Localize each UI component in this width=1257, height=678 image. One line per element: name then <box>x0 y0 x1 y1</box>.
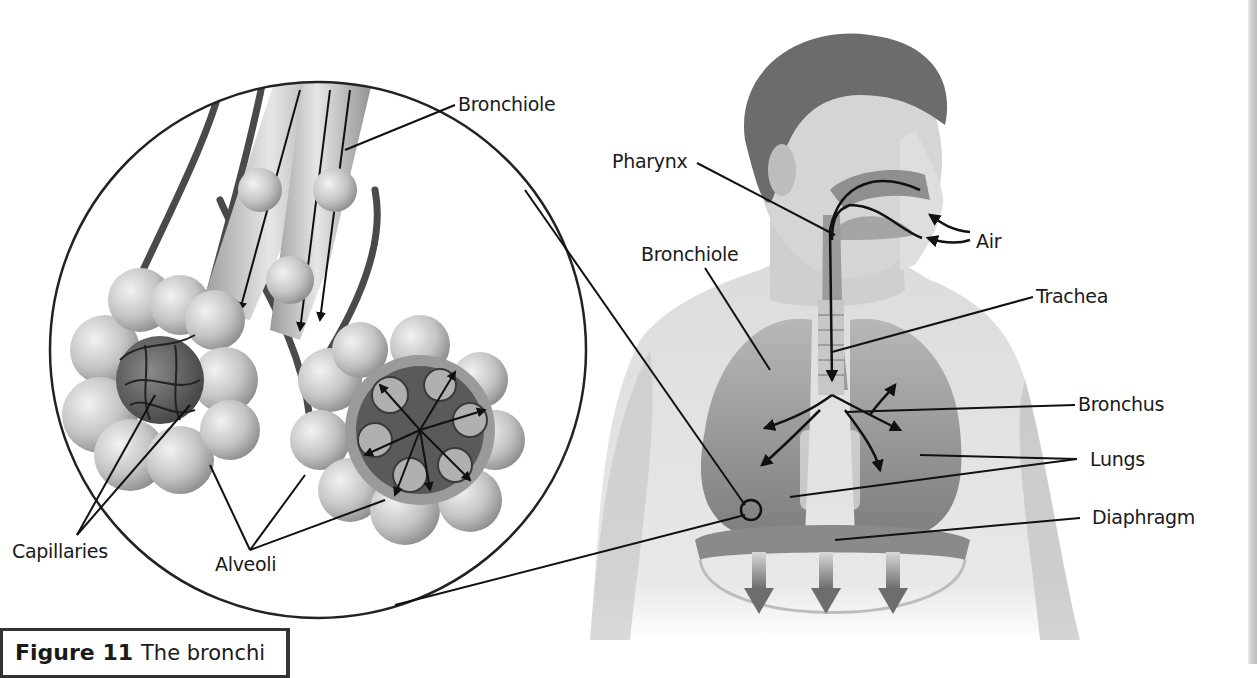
label-trachea: Trachea <box>1036 285 1108 307</box>
label-bronchiole-inset: Bronchiole <box>458 93 555 115</box>
label-diaphragm: Diaphragm <box>1092 506 1195 528</box>
label-pharynx: Pharynx <box>612 150 687 172</box>
page-edge <box>1248 0 1257 664</box>
label-air: Air <box>976 230 1001 252</box>
figure-caption-text: The bronchi <box>141 641 265 665</box>
label-alveoli: Alveoli <box>215 553 276 575</box>
figure-number: Figure 11 <box>15 640 133 665</box>
human-figure <box>590 34 1080 640</box>
label-capillaries: Capillaries <box>12 540 108 562</box>
label-bronchus: Bronchus <box>1078 393 1164 415</box>
alveoli-inset <box>50 70 586 618</box>
label-lungs: Lungs <box>1090 448 1145 470</box>
label-bronchiole-body: Bronchiole <box>641 243 738 265</box>
figure-caption: Figure 11The bronchi <box>0 628 290 678</box>
